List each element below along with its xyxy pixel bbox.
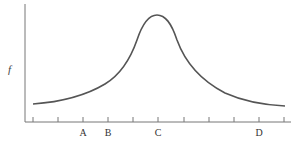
tick-label-a: A bbox=[79, 127, 87, 138]
resonance-curve-diagram: f A B C D bbox=[0, 0, 304, 144]
x-axis-ticks bbox=[33, 117, 284, 122]
response-curve bbox=[33, 15, 285, 106]
tick-label-b: B bbox=[105, 127, 112, 138]
tick-label-c: C bbox=[155, 127, 162, 138]
tick-label-d: D bbox=[255, 127, 262, 138]
y-axis-label: f bbox=[8, 63, 13, 75]
